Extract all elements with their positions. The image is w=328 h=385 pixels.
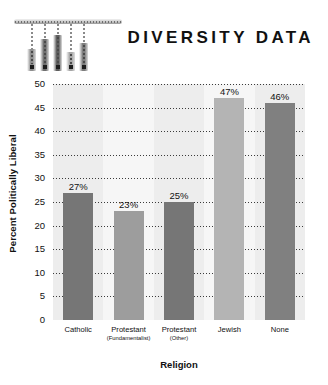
bar[interactable]	[164, 202, 194, 320]
decoration-stem	[57, 24, 59, 35]
y-axis-tick-label: 10	[0, 267, 45, 278]
decoration-bar	[53, 35, 62, 71]
decoration-bar-cap	[56, 65, 60, 69]
y-axis-tick-label: 5	[0, 290, 45, 301]
bar[interactable]	[63, 193, 93, 320]
y-axis-tick-label: 30	[0, 172, 45, 183]
x-tick-sublabel: (Other)	[145, 334, 213, 343]
bar-chart: Percent Politically Liberal 504540353025…	[0, 76, 328, 385]
x-tick-main: Catholic	[64, 325, 91, 334]
y-axis-tick-label: 25	[0, 196, 45, 207]
y-axis-tick-label: 50	[0, 78, 45, 89]
x-tick-main: Protestant	[111, 325, 146, 334]
decoration-bar	[40, 39, 49, 71]
decoration-bar	[66, 52, 75, 71]
rail-dot-pattern	[15, 21, 121, 23]
decoration-bar-dots	[31, 51, 33, 64]
y-axis-tick-label: 0	[0, 314, 45, 325]
x-axis-title: Religion	[53, 359, 305, 370]
decoration-bar	[27, 49, 36, 71]
decoration-bar-dots	[57, 37, 59, 64]
decoration-bar-cap	[69, 65, 73, 69]
plot-area	[53, 84, 305, 320]
chart-header: DIVERSITY DATA	[0, 0, 328, 76]
y-axis-tick-label: 40	[0, 125, 45, 136]
y-axis-tick-label: 20	[0, 220, 45, 231]
page-title: DIVERSITY DATA	[128, 28, 314, 48]
decoration-stem	[83, 24, 85, 43]
decoration-bar-dots	[83, 45, 85, 64]
decoration-bar-cap	[82, 65, 86, 69]
decoration-bar-dots	[44, 41, 46, 64]
y-axis-tick-label: 35	[0, 149, 45, 160]
decoration-stem	[31, 24, 33, 49]
x-tick-main: Jewish	[218, 325, 241, 334]
bar-value-label: 27%	[58, 181, 98, 192]
decoration-bar-dots	[70, 54, 72, 64]
hanging-bars-graphic	[14, 19, 122, 71]
decoration-bar	[79, 43, 88, 71]
y-axis-tick-label: 45	[0, 102, 45, 113]
x-tick-main: Protestant	[162, 325, 197, 334]
y-axis-tick-label: 15	[0, 243, 45, 254]
gridline	[53, 84, 305, 85]
decoration-bar-cap	[30, 65, 34, 69]
x-tick-main: None	[271, 325, 289, 334]
bar-value-label: 23%	[109, 199, 149, 210]
bar[interactable]	[214, 98, 244, 320]
decoration-bar-cap	[43, 65, 47, 69]
decoration-stem	[70, 24, 72, 52]
bar-value-label: 46%	[260, 91, 300, 102]
decoration-stem	[44, 24, 46, 39]
x-axis-tick-label: None	[246, 325, 314, 334]
bar[interactable]	[114, 211, 144, 320]
bar[interactable]	[265, 103, 295, 320]
bar-value-label: 47%	[209, 86, 249, 97]
bar-value-label: 25%	[159, 190, 199, 201]
